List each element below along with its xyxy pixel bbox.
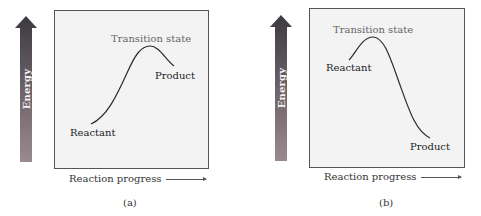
- product-label: Product: [155, 71, 195, 81]
- reactant-label: Reactant: [70, 128, 115, 138]
- panel-b-exothermic: Energy Transition state Reactant Product…: [240, 0, 481, 216]
- right-arrow-icon: [166, 179, 206, 180]
- x-axis-label-text: Reaction progress: [324, 172, 416, 182]
- panel-a-endothermic: Energy Transition state Product Reactant…: [0, 0, 240, 216]
- energy-axis-label: Energy: [21, 69, 32, 110]
- energy-axis-arrow: Energy: [270, 15, 292, 161]
- panel-caption: (a): [123, 198, 137, 208]
- energy-axis-arrow: Energy: [15, 16, 37, 162]
- x-axis-label: Reaction progress: [69, 174, 206, 184]
- x-axis-label-text: Reaction progress: [69, 174, 161, 184]
- transition-state-label: Transition state: [333, 25, 413, 35]
- reactant-label: Reactant: [326, 63, 371, 73]
- product-label: Product: [410, 142, 450, 152]
- panel-caption: (b): [379, 198, 393, 208]
- transition-state-label: Transition state: [111, 34, 191, 44]
- right-arrow-icon: [421, 177, 461, 178]
- x-axis-label: Reaction progress: [324, 172, 461, 182]
- energy-axis-label: Energy: [276, 68, 287, 109]
